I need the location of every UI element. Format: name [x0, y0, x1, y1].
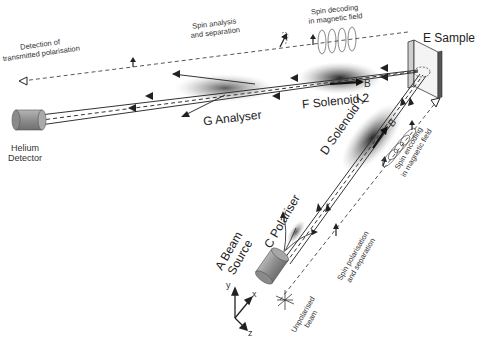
helium-detector-label: Helium Detector [8, 143, 42, 163]
sample-plate [408, 40, 442, 98]
spin-decoding-helix [318, 27, 356, 54]
unpolarised-star-icon [276, 290, 294, 310]
axis-y-label: y [226, 280, 231, 290]
analyser-shading [175, 74, 275, 102]
axis-z-label: z [248, 328, 253, 338]
helium-detector-cylinder [12, 110, 46, 130]
b-field-label-outgoing: B [364, 79, 371, 89]
coordinate-axes [232, 288, 252, 330]
sample-label: E Sample [423, 32, 475, 45]
apparatus-diagram: Detection of transmitted polarisation Sp… [0, 0, 480, 344]
beam-source-cylinder [253, 246, 290, 287]
axis-x-label: x [252, 289, 257, 299]
